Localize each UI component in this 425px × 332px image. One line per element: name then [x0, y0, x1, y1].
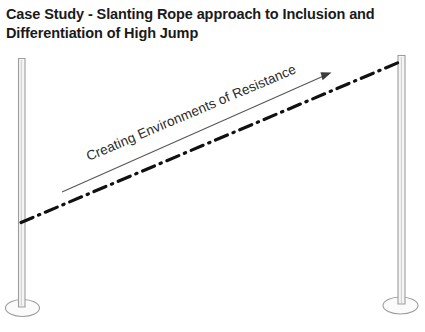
slanting-rope: [21, 61, 402, 223]
left-upright-post: [19, 59, 26, 308]
resistance-direction-arrow: [62, 75, 327, 193]
arrow-head-icon: [321, 72, 332, 80]
high-jump-diagram: [0, 0, 425, 332]
slide-canvas: Case Study - Slanting Rope approach to I…: [0, 0, 425, 332]
